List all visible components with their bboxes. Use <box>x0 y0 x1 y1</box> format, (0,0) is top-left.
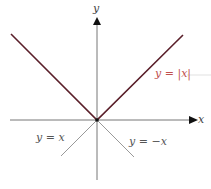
y-axis-arrow-icon <box>93 17 101 25</box>
origin-point <box>95 118 99 122</box>
x-axis-arrow-icon <box>189 116 198 124</box>
abs-curve-label: y = |x| <box>155 67 191 80</box>
line-y-equals-x-lower <box>61 120 97 156</box>
y-axis-label: y <box>93 2 99 15</box>
x-axis-label: x <box>198 113 204 126</box>
negative-line-label: y = −x <box>129 135 167 148</box>
abs-value-diagram <box>0 0 211 189</box>
identity-line-label: y = x <box>36 131 65 144</box>
